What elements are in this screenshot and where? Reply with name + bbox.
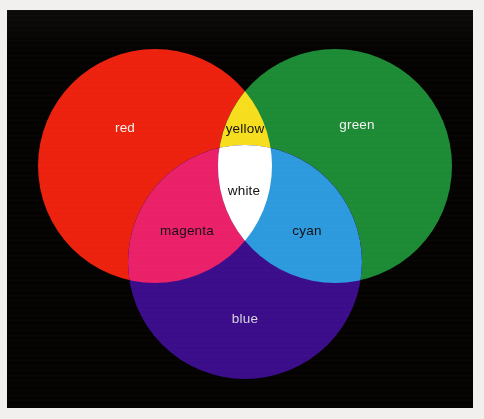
label-cyan: cyan [292,223,321,238]
label-white: white [227,183,261,198]
diagram-plate: red green blue yellow magenta cyan white [7,10,473,408]
label-green: green [339,117,375,132]
figure-root: red green blue yellow magenta cyan white [0,0,484,419]
label-red: red [115,120,135,135]
label-blue: blue [232,311,258,326]
label-magenta: magenta [160,223,214,238]
label-yellow: yellow [226,121,265,136]
venn-diagram: red green blue yellow magenta cyan white [7,10,473,408]
